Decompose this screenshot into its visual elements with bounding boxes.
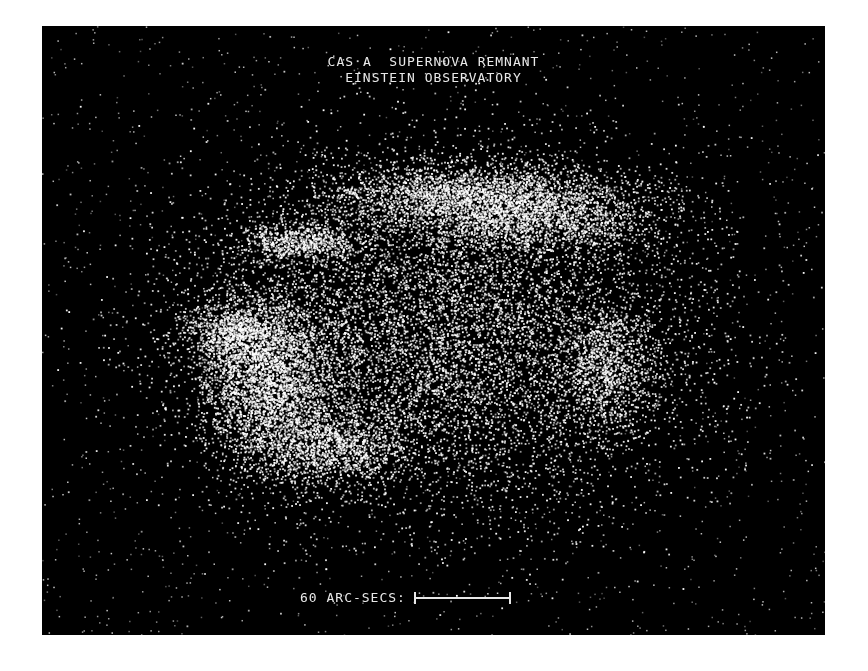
scale-label: 60 ARC-SECS: xyxy=(300,590,406,605)
image-title-line2: EINSTEIN OBSERVATORY xyxy=(42,70,825,85)
scale-bar-icon xyxy=(414,592,511,604)
supernova-remnant-xray-image xyxy=(42,26,825,635)
image-title-line1: CAS A SUPERNOVA REMNANT xyxy=(42,54,825,69)
xray-image-frame: CAS A SUPERNOVA REMNANT EINSTEIN OBSERVA… xyxy=(42,26,825,635)
scale-indicator: 60 ARC-SECS: xyxy=(300,590,511,605)
